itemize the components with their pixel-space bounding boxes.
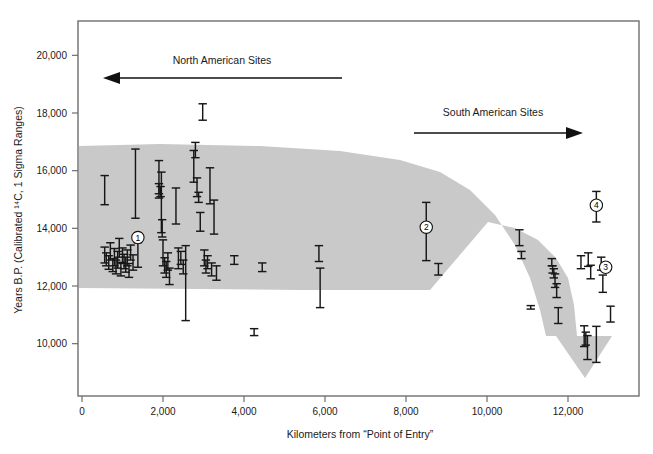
site-marker-number: 3 [603,262,608,272]
site-marker-number: 2 [424,222,429,232]
y-axis-title: Years B.P. (Calibrated ¹⁴C, 1 Sigma Rang… [12,106,24,314]
x-tick-label: 4,000 [231,406,256,417]
site-marker-3: 3 [599,261,611,273]
site-marker-number: 4 [594,200,599,210]
site-marker-number: 1 [136,233,141,243]
x-tick-label: 6,000 [312,406,337,417]
scatter-chart-canvas: 10,00012,00014,00016,00018,00020,00002,0… [0,0,653,454]
x-axis-title: Kilometers from “Point of Entry” [287,428,434,440]
chart-figure: 10,00012,00014,00016,00018,00020,00002,0… [0,0,653,454]
x-tick-label: 12,000 [553,406,584,417]
y-tick-label: 18,000 [36,108,67,119]
y-tick-label: 20,000 [36,50,67,61]
site-marker-2: 2 [420,221,432,233]
x-tick-label: 10,000 [472,406,503,417]
y-tick-label: 12,000 [36,281,67,292]
x-tick-label: 2,000 [150,406,175,417]
site-marker-1: 1 [132,231,144,243]
x-tick-label: 8,000 [393,406,418,417]
south-american-sites-label: South American Sites [443,106,543,118]
x-tick-label: 0 [79,406,85,417]
y-tick-label: 14,000 [36,223,67,234]
north-american-sites-label: North American Sites [173,54,272,66]
y-tick-label: 16,000 [36,165,67,176]
site-marker-4: 4 [590,199,602,211]
y-tick-label: 10,000 [36,338,67,349]
